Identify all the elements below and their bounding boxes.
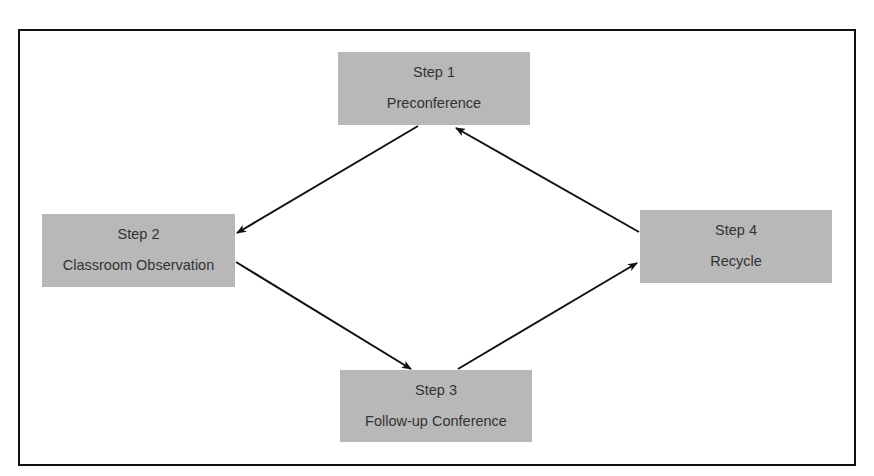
step-4-name: Recycle [640, 253, 832, 269]
step-3-label: Step 3 [340, 382, 532, 398]
step-4-box: Step 4 Recycle [640, 210, 832, 283]
arrow-step2-to-step3 [236, 262, 411, 369]
step-1-label: Step 1 [338, 64, 530, 80]
step-2-box: Step 2 Classroom Observation [42, 214, 235, 287]
arrow-step3-to-step4 [458, 263, 637, 369]
arrow-step4-to-step1 [456, 128, 639, 232]
arrow-step1-to-step2 [237, 126, 418, 233]
step-2-label: Step 2 [42, 226, 235, 242]
step-4-label: Step 4 [640, 222, 832, 238]
step-1-name: Preconference [338, 95, 530, 111]
step-2-name: Classroom Observation [42, 257, 235, 273]
step-3-name: Follow-up Conference [340, 413, 532, 429]
step-1-box: Step 1 Preconference [338, 52, 530, 125]
step-3-box: Step 3 Follow-up Conference [340, 370, 532, 442]
